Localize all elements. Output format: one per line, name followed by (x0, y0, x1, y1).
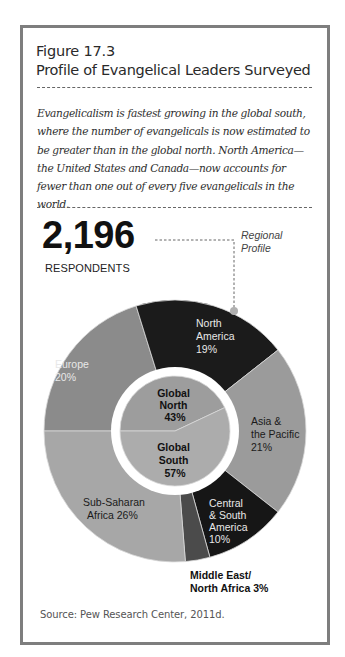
callout-leader-line (155, 240, 234, 310)
label-middle-east-north-africa: Middle East/ North Africa 3% (190, 569, 269, 594)
callout-dot (230, 307, 238, 315)
donut-chart: Europe 20% North America 19% Asia & the … (0, 0, 345, 657)
source-note: Source: Pew Research Center, 2011d. (40, 609, 225, 620)
